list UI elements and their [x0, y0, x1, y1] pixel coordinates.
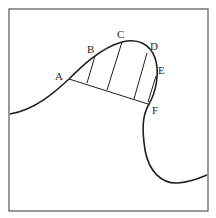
- label-D: D: [150, 40, 158, 52]
- segment-B: [87, 56, 95, 83]
- frame-border: [9, 9, 208, 211]
- label-E: E: [158, 64, 165, 76]
- label-B: B: [87, 43, 94, 55]
- curve-chord-diagram: A B C D E F: [0, 0, 216, 218]
- diagram-canvas: A B C D E F: [0, 0, 216, 218]
- segment-D: [134, 53, 147, 99]
- label-F: F: [152, 104, 158, 116]
- curve: [10, 41, 207, 183]
- label-A: A: [55, 70, 63, 82]
- label-C: C: [117, 28, 124, 40]
- segment-C: [107, 42, 122, 90]
